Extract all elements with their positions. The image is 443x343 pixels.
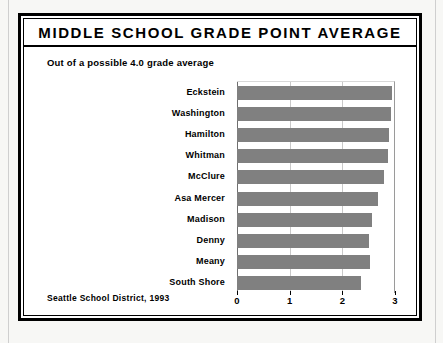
category-label-row: Whitman [24,145,231,166]
bar [237,107,391,121]
category-label: McClure [188,171,231,181]
category-label: Denny [196,235,231,245]
category-label-row: South Shore [24,272,231,293]
bar [237,192,378,206]
bar [237,149,388,163]
category-label-row: Asa Mercer [24,187,231,208]
x-tick-label: 1 [287,295,292,306]
bar-row [237,188,394,209]
category-label: Asa Mercer [174,193,231,203]
category-label: South Shore [169,277,231,287]
chart-frame-inner: MIDDLE SCHOOL GRADE POINT AVERAGE Out of… [23,18,417,316]
bar [237,213,372,227]
chart-frame-outer: MIDDLE SCHOOL GRADE POINT AVERAGE Out of… [18,13,422,321]
bar-row [237,124,394,145]
category-label: Madison [187,214,231,224]
x-tick-mark [290,291,291,295]
source-note: Seattle School District, 1993 [47,293,170,303]
bar-row [237,273,394,294]
x-axis-ticks: 0123 [237,295,394,309]
category-label: Hamilton [185,129,231,139]
x-tick-mark [237,291,238,295]
bar [237,255,370,269]
category-label-row: Washington [24,102,231,123]
x-tick-label: 2 [340,295,345,306]
bar-row [237,82,394,103]
x-tick-label: 0 [234,295,239,306]
category-label-row: Meany [24,251,231,272]
bar-row [237,209,394,230]
bar-row [237,167,394,188]
bar [237,86,392,100]
category-label-row: McClure [24,166,231,187]
category-axis-labels: EcksteinWashingtonHamiltonWhitmanMcClure… [24,81,231,292]
plot-wrapper: EcksteinWashingtonHamiltonWhitmanMcClure… [24,19,416,315]
x-tick-mark [342,291,343,295]
category-label: Whitman [186,150,231,160]
bar [237,234,369,248]
bar-row [237,230,394,251]
bar [237,276,361,290]
x-tick-label: 3 [392,295,397,306]
bar-row [237,103,394,124]
category-label: Meany [196,256,231,266]
plot-area [237,81,395,293]
bar [237,170,384,184]
bar [237,128,389,142]
category-label-row: Eckstein [24,81,231,102]
bar-row [237,252,394,273]
page-left-rule [8,0,9,343]
category-label-row: Madison [24,208,231,229]
category-label-row: Hamilton [24,123,231,144]
category-label: Eckstein [186,87,231,97]
bar-row [237,146,394,167]
page-right-rule [435,0,436,343]
x-tick-mark [395,291,396,295]
category-label: Washington [172,108,231,118]
category-label-row: Denny [24,229,231,250]
